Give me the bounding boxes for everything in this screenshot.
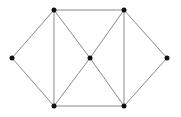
edge-TR-C	[90, 10, 124, 58]
edge-C-BR	[90, 58, 124, 106]
edge-TL-C	[54, 10, 90, 58]
nodes-group	[10, 8, 170, 109]
node-L	[10, 56, 15, 61]
node-C	[88, 56, 93, 61]
node-BR	[122, 104, 127, 109]
edge-R-BR	[124, 58, 167, 106]
node-TL	[52, 8, 57, 13]
edge-BL-C	[54, 58, 90, 106]
edge-TR-R	[124, 10, 167, 58]
graph-diagram	[0, 0, 181, 117]
node-R	[165, 56, 170, 61]
node-BL	[52, 104, 57, 109]
edge-L-TL	[12, 10, 54, 58]
node-TR	[122, 8, 127, 13]
edge-L-BL	[12, 58, 54, 106]
